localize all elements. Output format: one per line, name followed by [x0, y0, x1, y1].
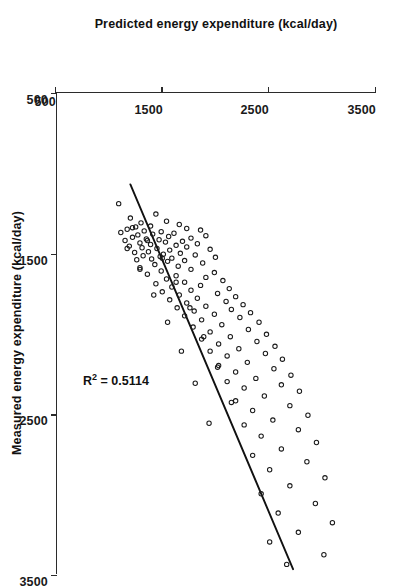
scatter-point	[262, 394, 266, 398]
scatter-point	[182, 280, 186, 284]
scatter-point	[141, 254, 145, 258]
scatter-point	[174, 280, 178, 284]
scatter-point	[185, 301, 189, 305]
scatter-point	[138, 241, 142, 245]
scatter-point	[123, 238, 127, 242]
scatter-point	[130, 235, 134, 239]
scatter-point	[193, 253, 197, 257]
scatter-point	[174, 243, 178, 247]
scatter-point	[198, 228, 202, 232]
scatter-point	[242, 423, 246, 427]
scatter-point	[165, 259, 169, 263]
scatter-point	[204, 233, 208, 237]
scatter-point	[220, 322, 224, 326]
scatter-point	[264, 332, 268, 336]
scatter-point	[228, 335, 232, 339]
scatter-point	[153, 262, 157, 266]
scatter-point	[259, 492, 263, 496]
x-axis-tick-mark	[51, 254, 57, 255]
scatter-point	[189, 288, 193, 292]
scatter-point	[263, 351, 267, 355]
scatter-point	[157, 238, 161, 242]
scatter-point	[215, 291, 219, 295]
y-axis-tick-mark	[268, 87, 269, 93]
scatter-point	[160, 290, 164, 294]
scatter-point	[204, 304, 208, 308]
scatter-point	[245, 360, 249, 364]
scatter-point	[271, 418, 275, 422]
scatter-point	[305, 460, 309, 464]
scatter-point	[128, 216, 132, 220]
scatter-point	[246, 327, 250, 331]
scatter-point	[280, 357, 284, 361]
scatter-point	[297, 389, 301, 393]
scatter-point	[296, 530, 300, 534]
scatter-point	[151, 232, 155, 236]
scatter-point	[208, 349, 212, 353]
scatter-point	[279, 447, 283, 451]
scatter-point	[267, 468, 271, 472]
scatter-point	[250, 408, 254, 412]
scatter-point	[182, 314, 186, 318]
scatter-point	[154, 212, 158, 216]
scatter-point	[142, 229, 146, 233]
scatter-point	[140, 246, 144, 250]
x-axis-tick-mark	[51, 575, 57, 576]
scatter-point	[165, 320, 169, 324]
scatter-point	[229, 400, 233, 404]
scatter-point	[313, 501, 317, 505]
scatter-point	[306, 413, 310, 417]
scatter-point	[185, 226, 189, 230]
scatter-point	[204, 275, 208, 279]
scatter-point	[259, 434, 263, 438]
r-squared-prefix: R	[83, 374, 92, 388]
scatter-point	[176, 264, 180, 268]
scatter-point	[168, 298, 172, 302]
scatter-point	[224, 299, 228, 303]
scatter-point	[208, 330, 212, 334]
y-axis-title: Predicted energy expenditure (kcal/day)	[95, 17, 338, 31]
scatter-point	[166, 234, 170, 238]
scatter-point	[148, 224, 152, 228]
scatter-point	[212, 312, 216, 316]
scatter-point	[172, 231, 176, 235]
scatter-point	[213, 255, 217, 259]
scatter-point	[148, 242, 152, 246]
scatter-point	[175, 306, 179, 310]
scatter-point	[314, 440, 318, 444]
scatter-point	[152, 293, 156, 297]
scatter-point	[193, 381, 197, 385]
scatter-point	[255, 339, 259, 343]
scatter-point	[159, 229, 163, 233]
scatter-point	[139, 221, 143, 225]
scatter-point	[296, 428, 300, 432]
scatter-point	[170, 285, 174, 289]
scatter-point	[212, 270, 216, 274]
scatter-point	[250, 453, 254, 457]
scatter-point	[178, 251, 182, 255]
x-axis-tick-mark	[51, 414, 57, 415]
scatter-point	[200, 261, 204, 265]
y-axis-tick-mark	[375, 87, 376, 93]
scatter-point	[323, 476, 327, 480]
scatter-point	[125, 227, 129, 231]
scatter-point	[288, 403, 292, 407]
scatter-point	[288, 484, 292, 488]
scatter-point	[208, 247, 212, 251]
scatter-point	[284, 562, 288, 566]
scatter-point	[195, 242, 199, 246]
scatter-point	[225, 354, 229, 358]
scatter-point	[188, 306, 192, 310]
scatter-point	[233, 399, 237, 403]
scatter-point	[149, 257, 153, 261]
scatter-point	[322, 553, 326, 557]
scatter-chart-figure: 500150025003500500150025003500 Measured …	[0, 0, 398, 588]
scatter-point	[248, 310, 252, 314]
scatter-point	[177, 222, 181, 226]
scatter-point	[279, 383, 283, 387]
scatter-point	[199, 318, 203, 322]
scatter-point	[191, 325, 195, 329]
scatter-point	[145, 272, 149, 276]
y-axis-tick-label: 3500	[347, 103, 376, 117]
scatter-point	[116, 201, 120, 205]
